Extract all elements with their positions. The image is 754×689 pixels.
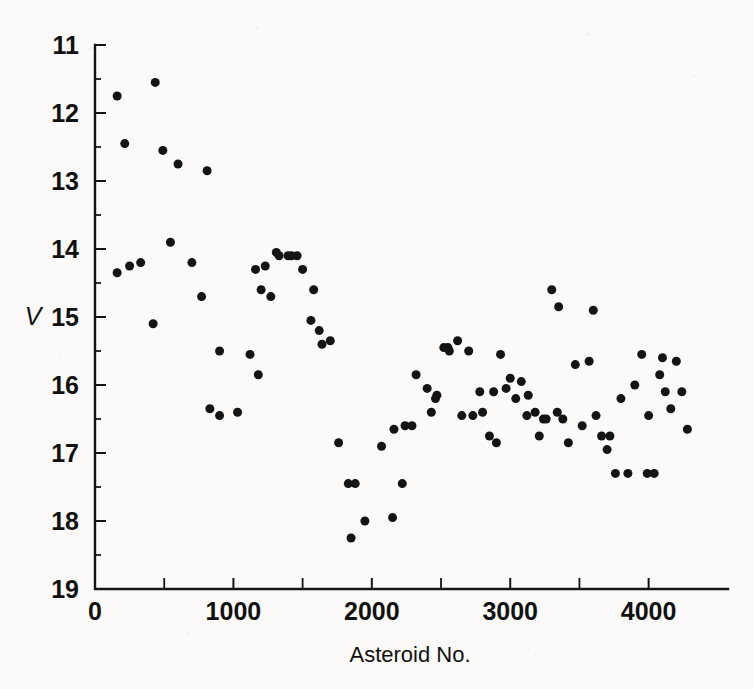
data-point	[427, 408, 436, 417]
y-axis-title: V	[25, 302, 44, 330]
data-point	[644, 411, 653, 420]
data-point	[589, 306, 598, 315]
data-point	[377, 442, 386, 451]
data-point	[205, 404, 214, 413]
y-tick-label: 15	[51, 303, 79, 331]
y-tick-label: 11	[53, 31, 80, 59]
data-point	[215, 411, 224, 420]
data-point	[623, 469, 632, 478]
data-point	[347, 534, 356, 543]
data-point	[485, 432, 494, 441]
data-point	[464, 347, 473, 356]
data-point	[539, 415, 548, 424]
data-point	[287, 251, 296, 260]
y-tick-label: 14	[51, 235, 79, 263]
x-tick-label: 3000	[482, 597, 538, 625]
y-tick-label: 16	[51, 371, 79, 399]
y-tick-label: 13	[51, 167, 79, 195]
data-point	[158, 146, 167, 155]
data-point	[683, 425, 692, 434]
data-point	[571, 360, 580, 369]
x-axis-tick-labels: 01000200030004000	[88, 597, 676, 625]
data-point	[564, 438, 573, 447]
data-point	[272, 248, 281, 257]
data-point	[246, 350, 255, 359]
data-point	[531, 408, 540, 417]
data-point	[611, 469, 620, 478]
y-axis-ticks	[95, 45, 106, 589]
data-point	[113, 268, 122, 277]
x-tick-label: 0	[88, 597, 102, 625]
data-point	[203, 166, 212, 175]
figure-page: 111213141516171819 01000200030004000 Ast…	[0, 0, 754, 689]
data-point	[151, 78, 160, 87]
x-tick-label: 2000	[344, 597, 400, 625]
data-point	[388, 513, 397, 522]
data-point	[511, 394, 520, 403]
data-point	[431, 394, 440, 403]
data-point	[113, 92, 122, 101]
data-points	[113, 78, 692, 543]
data-point	[558, 415, 567, 424]
data-point	[257, 285, 266, 294]
data-point	[475, 387, 484, 396]
data-point	[261, 262, 270, 271]
x-axis-ticks	[95, 578, 649, 589]
axis-frame	[95, 45, 728, 589]
data-point	[661, 387, 670, 396]
y-tick-label: 12	[51, 99, 79, 127]
data-point	[215, 347, 224, 356]
data-point	[616, 394, 625, 403]
data-point	[351, 479, 360, 488]
data-point	[407, 421, 416, 430]
data-point	[517, 377, 526, 386]
data-point	[187, 258, 196, 267]
data-point	[233, 408, 242, 417]
data-point	[496, 350, 505, 359]
data-point	[251, 265, 260, 274]
data-point	[502, 384, 511, 393]
data-point	[309, 285, 318, 294]
data-point	[522, 411, 531, 420]
data-point	[398, 479, 407, 488]
data-point	[554, 302, 563, 311]
data-point	[535, 432, 544, 441]
data-point	[655, 370, 664, 379]
data-point	[506, 374, 515, 383]
data-point	[443, 343, 452, 352]
data-point	[120, 139, 129, 148]
y-tick-label: 18	[51, 507, 79, 535]
data-point	[197, 292, 206, 301]
data-point	[453, 336, 462, 345]
data-point	[334, 438, 343, 447]
data-point	[412, 370, 421, 379]
data-point	[166, 238, 175, 247]
data-point	[423, 384, 432, 393]
data-point	[666, 404, 675, 413]
y-axis-tick-labels: 111213141516171819	[51, 31, 79, 603]
data-point	[578, 421, 587, 430]
y-tick-label: 19	[51, 575, 79, 603]
x-axis-title: Asteroid No.	[349, 642, 470, 667]
data-point	[603, 445, 612, 454]
data-point	[298, 265, 307, 274]
y-tick-label: 17	[51, 439, 79, 467]
x-tick-label: 1000	[206, 597, 262, 625]
x-tick-label: 4000	[621, 597, 677, 625]
data-point	[149, 319, 158, 328]
data-point	[547, 285, 556, 294]
data-point	[174, 160, 183, 169]
data-point	[468, 411, 477, 420]
data-point	[592, 411, 601, 420]
data-point	[672, 357, 681, 366]
data-point	[637, 350, 646, 359]
data-point	[650, 469, 659, 478]
data-point	[585, 357, 594, 366]
data-point	[524, 391, 533, 400]
data-point	[489, 387, 498, 396]
data-point	[326, 336, 335, 345]
data-point	[605, 432, 614, 441]
scatter-plot: 111213141516171819 01000200030004000 Ast…	[0, 0, 754, 689]
data-point	[389, 425, 398, 434]
data-point	[315, 326, 324, 335]
